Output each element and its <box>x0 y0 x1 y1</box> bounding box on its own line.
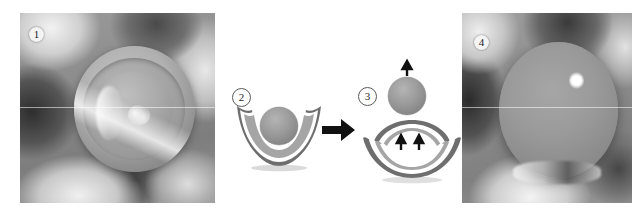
panel-2-drop-shadow <box>251 165 307 171</box>
panel-1-photomicrograph: 1 <box>20 13 215 203</box>
right-arrow-icon <box>322 118 356 142</box>
panel-3-ejection-arrow-icon <box>403 61 412 76</box>
panel-3-drop-shadow <box>382 177 442 183</box>
panel-1-scanline-artifact <box>20 107 215 108</box>
panel-2-schematic <box>234 100 324 172</box>
panel-4-photomicrograph: 4 <box>462 13 632 203</box>
panel-3-launched-sphere <box>388 77 426 115</box>
transition-right-arrow <box>322 118 356 142</box>
figure-container: 1 2 <box>0 0 639 216</box>
panel-3-schematic <box>366 58 458 186</box>
panel-4-number-label: 4 <box>474 35 489 50</box>
panel-4-base-debris <box>513 161 601 184</box>
panel-3-svg <box>366 58 458 186</box>
panel-4-scanline-artifact <box>462 107 632 108</box>
panel-2-sphere <box>260 107 298 145</box>
panel-4-protruding-droplet <box>499 42 618 179</box>
panel-1-rim-glint <box>74 46 195 171</box>
panel-2-number-label: 2 <box>232 88 251 107</box>
panel-3-number-label: 3 <box>358 87 377 106</box>
panel-1-number-label: 1 <box>29 27 44 42</box>
panel-2-svg <box>234 100 324 172</box>
